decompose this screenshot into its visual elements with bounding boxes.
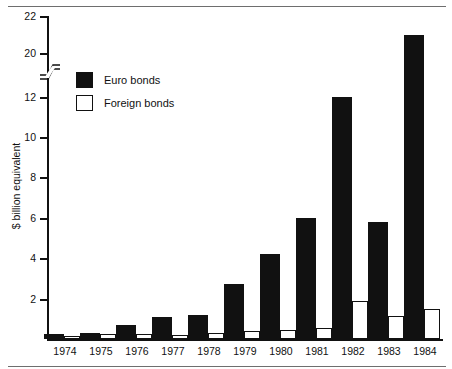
x-tick-label-1976: 1976 bbox=[119, 345, 155, 357]
bar-foreign-1983 bbox=[388, 316, 404, 339]
bar-foreign-1976 bbox=[136, 334, 152, 339]
bar-euro-1981 bbox=[296, 218, 316, 339]
x-tick-label-1980: 1980 bbox=[263, 345, 299, 357]
bar-euro-1983 bbox=[368, 222, 388, 339]
bar-euro-1979 bbox=[224, 284, 244, 339]
bar-euro-1975 bbox=[80, 333, 100, 339]
bar-euro-1980 bbox=[260, 254, 280, 339]
bar-foreign-1979 bbox=[244, 331, 260, 339]
y-tick-label-2: 2 bbox=[0, 294, 36, 305]
x-tick-label-1977: 1977 bbox=[155, 345, 191, 357]
x-tick-label-1982: 1982 bbox=[335, 345, 371, 357]
bar-euro-1976 bbox=[116, 325, 136, 339]
y-tick-label-22: 22 bbox=[0, 11, 36, 22]
bar-euro-1974 bbox=[44, 334, 64, 339]
bar-euro-1977 bbox=[152, 317, 172, 339]
plot-area bbox=[47, 16, 443, 339]
bar-foreign-1981 bbox=[316, 328, 332, 339]
bar-foreign-1980 bbox=[280, 330, 296, 339]
y-axis-title: $ billion equivalent bbox=[10, 86, 22, 286]
bar-foreign-1975 bbox=[100, 334, 116, 339]
x-tick-label-1979: 1979 bbox=[227, 345, 263, 357]
bar-foreign-1977 bbox=[172, 335, 188, 339]
x-tick-label-1975: 1975 bbox=[83, 345, 119, 357]
x-tick-label-1983: 1983 bbox=[371, 345, 407, 357]
x-tick-label-1974: 1974 bbox=[47, 345, 83, 357]
bar-euro-1984 bbox=[404, 35, 424, 340]
bar-chart-figure: 222012108642 $ billion equivalent Euro b… bbox=[0, 0, 452, 369]
top-divider-rule bbox=[8, 6, 446, 7]
x-tick-label-1981: 1981 bbox=[299, 345, 335, 357]
bar-euro-1982 bbox=[332, 97, 352, 339]
bar-foreign-1978 bbox=[208, 333, 224, 339]
bar-foreign-1974 bbox=[64, 336, 80, 339]
x-axis-baseline bbox=[47, 339, 443, 341]
bar-foreign-1982 bbox=[352, 301, 368, 339]
bar-euro-1978 bbox=[188, 315, 208, 339]
x-tick-label-1978: 1978 bbox=[191, 345, 227, 357]
bar-foreign-1984 bbox=[424, 309, 440, 339]
y-tick-label-20: 20 bbox=[0, 48, 36, 59]
x-tick-label-1984: 1984 bbox=[407, 345, 443, 357]
bottom-divider-rule bbox=[8, 366, 446, 367]
